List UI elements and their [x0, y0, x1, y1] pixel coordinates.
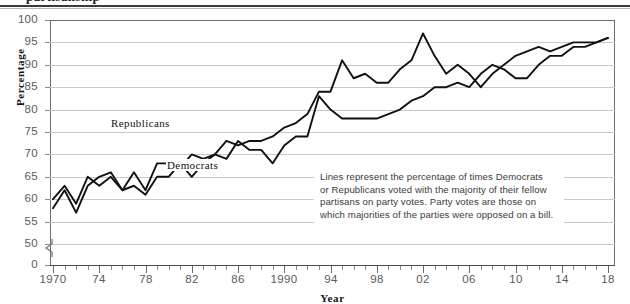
x-tick-major — [53, 266, 54, 273]
x-tick-minor — [446, 266, 447, 270]
x-tick-label: 94 — [324, 273, 337, 285]
x-tick-minor — [226, 266, 227, 270]
series-lines — [50, 20, 615, 265]
x-tick-minor — [296, 266, 297, 270]
series-label-republicans: Republicans — [110, 117, 171, 129]
top-rule-secondary — [0, 8, 630, 9]
y-tick-label: 70 — [8, 147, 38, 159]
x-tick-minor — [492, 266, 493, 270]
x-tick-major — [608, 266, 609, 273]
x-tick-minor — [435, 266, 436, 270]
x-tick-minor — [354, 266, 355, 270]
x-tick-minor — [250, 266, 251, 270]
y-tick-label: 65 — [8, 170, 38, 182]
x-tick-minor — [65, 266, 66, 270]
x-tick-label: 86 — [231, 273, 244, 285]
x-tick-label: 14 — [555, 273, 568, 285]
annotation-line-0: Lines represent the percentage of times … — [320, 171, 558, 184]
x-tick-major — [377, 266, 378, 273]
x-tick-label: 78 — [139, 273, 152, 285]
x-tick-minor — [122, 266, 123, 270]
x-tick-minor — [342, 266, 343, 270]
x-tick-minor — [169, 266, 170, 270]
x-tick-minor — [573, 266, 574, 270]
x-tick-minor — [273, 266, 274, 270]
x-tick-label: 1970 — [40, 273, 67, 285]
x-tick-major — [516, 266, 517, 273]
x-tick-major — [423, 266, 424, 273]
x-tick-label: 18 — [601, 273, 614, 285]
x-tick-major — [192, 266, 193, 273]
x-tick-label: 98 — [370, 273, 383, 285]
x-tick-minor — [88, 266, 89, 270]
y-tick-label: 55 — [8, 215, 38, 227]
annotation-line-2: partisans on party votes. Party votes ar… — [320, 196, 558, 209]
x-tick-minor — [76, 266, 77, 270]
x-tick-label: 82 — [185, 273, 198, 285]
x-tick-major — [331, 266, 332, 273]
x-tick-minor — [111, 266, 112, 270]
x-tick-minor — [550, 266, 551, 270]
x-tick-minor — [481, 266, 482, 270]
x-tick-minor — [458, 266, 459, 270]
y-tick-label: 50 — [8, 237, 38, 249]
x-tick-minor — [527, 266, 528, 270]
top-rule — [0, 5, 630, 7]
x-tick-minor — [180, 266, 181, 270]
x-tick-minor — [411, 266, 412, 270]
x-tick-minor — [388, 266, 389, 270]
x-tick-major — [146, 266, 147, 273]
series-label-democrats: Democrats — [166, 159, 219, 171]
x-tick-minor — [134, 266, 135, 270]
x-tick-major — [284, 266, 285, 273]
x-tick-minor — [261, 266, 262, 270]
x-tick-major — [238, 266, 239, 273]
y-tick-label: 0 — [8, 258, 38, 270]
y-tick-label: 100 — [8, 13, 38, 25]
y-tick-label: 60 — [8, 192, 38, 204]
x-tick-minor — [319, 266, 320, 270]
x-tick-label: 02 — [416, 273, 429, 285]
annotation-line-3: which majorities of the parties were opp… — [320, 209, 558, 222]
x-tick-minor — [365, 266, 366, 270]
x-tick-minor — [203, 266, 204, 270]
annotation-note: Lines represent the percentage of times … — [314, 167, 564, 226]
x-tick-minor — [307, 266, 308, 270]
x-tick-label: 10 — [509, 273, 522, 285]
y-tick-label: 75 — [8, 125, 38, 137]
plot-area: 050556065707580859095100 Percentage Repu… — [50, 20, 615, 265]
x-tick-minor — [157, 266, 158, 270]
y-tick-label: 95 — [8, 35, 38, 47]
x-tick-minor — [400, 266, 401, 270]
y-axis-title: Percentage — [14, 48, 26, 106]
x-tick-major — [99, 266, 100, 273]
x-axis-title: Year — [50, 292, 615, 304]
x-tick-minor — [539, 266, 540, 270]
x-tick-minor — [585, 266, 586, 270]
x-tick-label: 1990 — [271, 273, 298, 285]
x-tick-label: 06 — [462, 273, 475, 285]
x-tick-major — [469, 266, 470, 273]
x-tick-minor — [504, 266, 505, 270]
x-tick-major — [562, 266, 563, 273]
x-tick-label: 74 — [92, 273, 105, 285]
annotation-line-1: or Republicans voted with the majority o… — [320, 184, 558, 197]
x-tick-minor — [596, 266, 597, 270]
x-tick-minor — [215, 266, 216, 270]
